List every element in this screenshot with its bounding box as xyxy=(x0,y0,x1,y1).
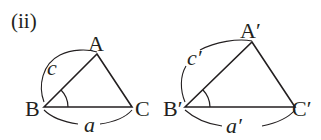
side-a-brace-right xyxy=(100,110,132,124)
side-a-brace-left xyxy=(44,110,78,124)
side-a-prime-brace-right xyxy=(262,110,295,126)
vertex-a-label: A xyxy=(88,33,104,55)
angle-b-arc xyxy=(61,90,68,107)
vertex-b-label: B xyxy=(25,98,40,120)
figure-label: (ii) xyxy=(11,11,37,32)
vertex-c-label: C xyxy=(135,98,150,120)
side-c-label: c xyxy=(47,57,57,79)
vertex-a-prime-label: A′ xyxy=(240,20,261,42)
vertex-c-prime-label: C′ xyxy=(292,98,312,120)
side-a-prime-brace-left xyxy=(185,110,222,126)
side-a-prime-label: a′ xyxy=(226,115,242,137)
side-c-prime-label: c′ xyxy=(187,47,202,69)
angle-b-prime-arc xyxy=(203,90,210,107)
side-a-label: a xyxy=(84,114,95,136)
vertex-b-prime-label: B′ xyxy=(163,98,183,120)
triangle-abc xyxy=(44,54,132,107)
